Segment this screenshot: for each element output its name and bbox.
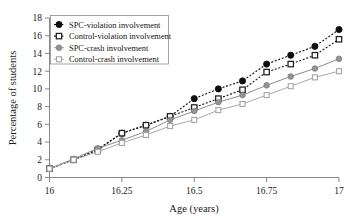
- legend-label: SPC-violation involvement: [69, 21, 161, 30]
- legend-item-1[interactable]: SPC-violation involvement: [54, 21, 161, 30]
- x-tick-label: 17: [334, 186, 344, 196]
- data-point-marker: [336, 56, 342, 62]
- legend-label: Control-crash involvement: [69, 55, 160, 64]
- data-point-marker: [191, 96, 197, 102]
- data-point-marker: [216, 108, 221, 113]
- data-point-marker: [143, 132, 148, 137]
- data-point-marker: [47, 166, 52, 171]
- data-point-marker: [312, 43, 318, 49]
- y-tick-label: 16: [33, 31, 43, 41]
- legend-item-3[interactable]: SPC-crash involvement: [54, 44, 149, 53]
- data-point-marker: [143, 123, 148, 128]
- data-point-marker: [95, 149, 100, 154]
- data-point-marker: [56, 21, 62, 27]
- data-point-marker: [71, 157, 76, 162]
- data-point-marker: [167, 117, 173, 123]
- data-point-marker: [215, 86, 221, 92]
- data-point-marker: [264, 69, 269, 74]
- y-tick-label: 14: [33, 49, 43, 59]
- data-point-marker: [57, 57, 62, 62]
- data-point-marker: [168, 124, 173, 129]
- chart-figure: 024681012141618 1616.2516.516.7517 Age (…: [0, 0, 352, 220]
- y-tick-label: 8: [37, 102, 42, 112]
- legend-label: Control-violation involvement: [69, 32, 172, 41]
- y-axis-title: Percentage of students: [7, 51, 18, 145]
- data-point-marker: [312, 53, 317, 58]
- x-tick-label: 16.25: [111, 186, 133, 196]
- data-point-marker: [191, 108, 197, 114]
- data-point-marker: [56, 33, 61, 38]
- y-tick-label: 2: [37, 155, 42, 165]
- data-point-marker: [119, 140, 124, 145]
- chart-legend: SPC-violation involvementControl-violati…: [51, 16, 172, 65]
- data-point-marker: [56, 45, 62, 51]
- y-tick-label: 18: [33, 13, 43, 23]
- y-axis-ticks: 024681012141618: [33, 13, 50, 183]
- y-tick-label: 0: [37, 173, 42, 183]
- data-point-marker: [288, 74, 294, 80]
- data-point-marker: [288, 52, 294, 58]
- data-point-marker: [192, 117, 197, 122]
- legend-item-4[interactable]: Control-crash involvement: [54, 55, 160, 64]
- data-point-marker: [312, 66, 318, 72]
- data-point-marker: [312, 75, 317, 80]
- x-tick-label: 16: [45, 186, 55, 196]
- legend-label: SPC-crash involvement: [69, 44, 149, 53]
- line-chart-canvas: 024681012141618 1616.2516.516.7517 Age (…: [0, 0, 352, 220]
- data-point-marker: [336, 26, 342, 32]
- data-point-marker: [337, 69, 342, 74]
- y-tick-label: 12: [33, 67, 43, 77]
- data-point-marker: [216, 99, 222, 105]
- y-tick-label: 4: [37, 137, 42, 147]
- x-axis-ticks: 1616.2516.516.7517: [45, 178, 344, 197]
- y-tick-label: 10: [33, 84, 43, 94]
- data-point-marker: [288, 61, 293, 66]
- series-4: [47, 69, 342, 171]
- data-point-marker: [264, 83, 270, 89]
- data-point-marker: [240, 101, 245, 106]
- data-point-marker: [119, 130, 124, 135]
- data-point-marker: [264, 93, 269, 98]
- data-point-marker: [240, 87, 245, 92]
- data-point-marker: [336, 37, 341, 42]
- data-point-marker: [264, 61, 270, 67]
- y-tick-label: 6: [37, 120, 42, 130]
- data-point-marker: [240, 92, 246, 98]
- x-tick-label: 16.75: [256, 186, 278, 196]
- data-point-marker: [288, 84, 293, 89]
- x-tick-label: 16.5: [186, 186, 203, 196]
- legend-item-2[interactable]: Control-violation involvement: [54, 32, 172, 41]
- data-point-marker: [239, 78, 245, 84]
- x-axis-title: Age (years): [169, 203, 219, 215]
